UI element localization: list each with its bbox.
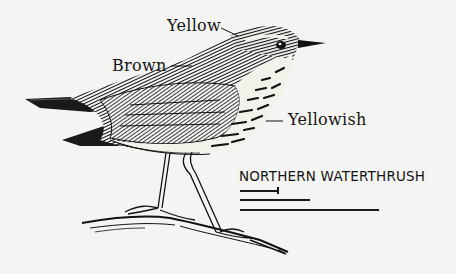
branch bbox=[82, 216, 288, 254]
bird-illustration bbox=[0, 0, 456, 274]
scale-bar-short bbox=[240, 190, 279, 192]
scale-bar-long bbox=[240, 209, 379, 211]
field-guide-illustration: Yellow Brown Yellowish NORTHERN WATERTHR… bbox=[0, 0, 456, 274]
legs bbox=[125, 152, 252, 238]
label-underparts-yellowish: Yellowish bbox=[288, 110, 367, 129]
scale-bar-medium bbox=[240, 199, 310, 201]
species-title: NORTHERN WATERTHRUSH bbox=[239, 168, 425, 184]
label-crown-yellow: Yellow bbox=[167, 16, 221, 35]
scale-bar-tick bbox=[277, 187, 279, 194]
label-back-brown: Brown bbox=[112, 56, 167, 75]
